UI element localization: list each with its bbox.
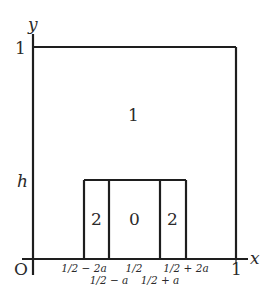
region-right-strip-label: 2 bbox=[167, 209, 178, 229]
x-tick-half-plus-2a: 1/2 + 2a bbox=[163, 262, 208, 274]
diagram-canvas: y 1 h O x 1 1 2 0 2 1/2 − 2a 1/2 1/2 + 2… bbox=[0, 0, 278, 297]
y-tick-1-label: 1 bbox=[15, 38, 26, 58]
x-tick-half-minus-a: 1/2 − a bbox=[90, 274, 129, 286]
y-axis-label: y bbox=[27, 14, 38, 34]
x-axis-label: x bbox=[250, 248, 260, 268]
region-center-label: 0 bbox=[129, 209, 140, 229]
region-left-strip-label: 2 bbox=[91, 209, 102, 229]
origin-label: O bbox=[14, 259, 28, 279]
x-tick-1-label: 1 bbox=[231, 259, 242, 279]
region-outer-label: 1 bbox=[128, 105, 139, 125]
x-tick-half-plus-a: 1/2 + a bbox=[141, 274, 180, 286]
x-tick-half: 1/2 bbox=[126, 262, 143, 274]
x-tick-half-minus-2a: 1/2 − 2a bbox=[61, 262, 106, 274]
y-tick-h-label: h bbox=[17, 171, 28, 191]
